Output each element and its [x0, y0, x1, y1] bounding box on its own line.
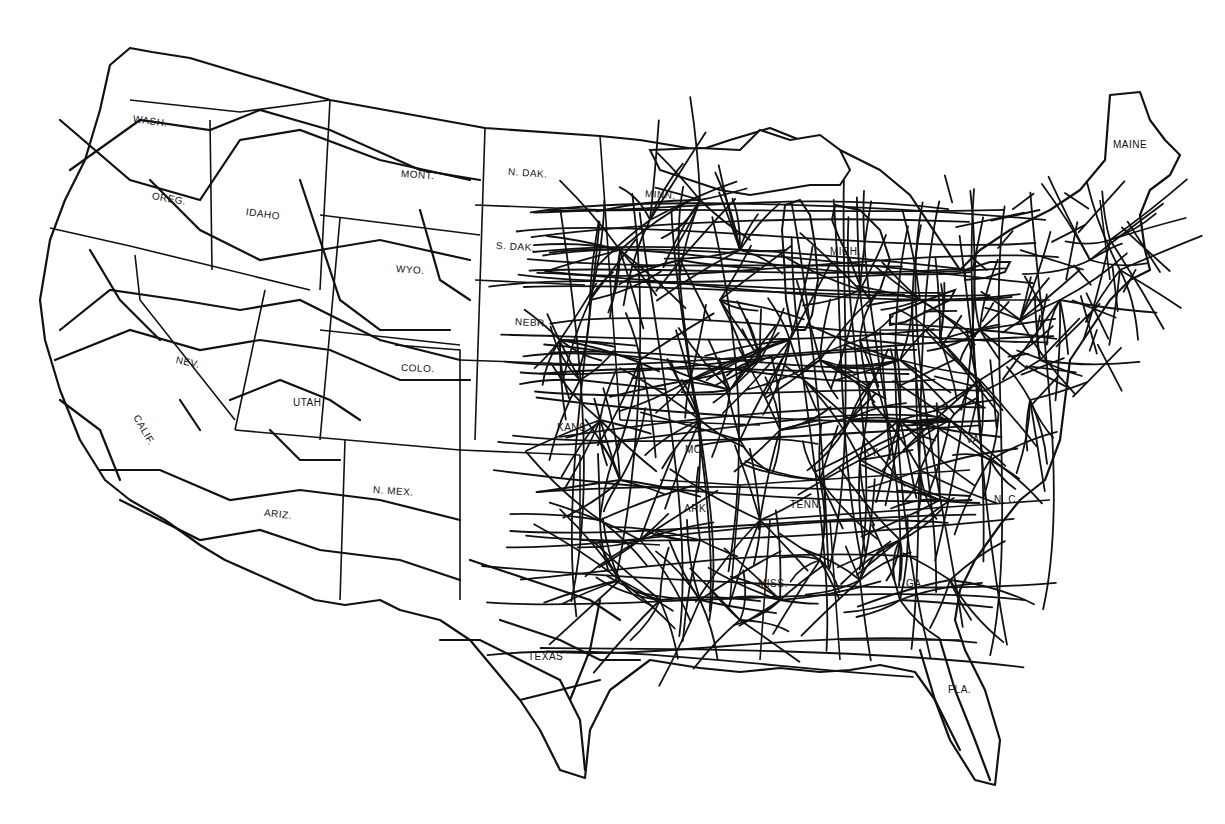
state-label-texas: TEXAS [528, 651, 563, 662]
state-label-mo: MO. [685, 444, 705, 455]
state-label-mont: MONT. [401, 168, 435, 181]
state-label-colo: COLO. [401, 362, 435, 374]
lake-superior [650, 130, 850, 195]
state-label-kans: KANS. [557, 422, 590, 433]
state-label-nebr: NEBR. [515, 316, 549, 329]
state-label-mich: MICH. [830, 246, 861, 257]
state-label-s-dak: S. DAK. [496, 240, 536, 253]
state-label-tenn: TENN. [790, 499, 823, 510]
rail-network-texas [440, 560, 640, 770]
state-label-ga: GA. [906, 578, 925, 589]
rail-network-east [482, 97, 1202, 685]
state-label-minn: MINN. [645, 188, 677, 201]
state-label-fla: FLA. [948, 684, 971, 695]
state-label-ky: KY. [864, 447, 880, 458]
us-railroad-map [0, 0, 1225, 824]
state-label-maine: MAINE [1113, 139, 1147, 150]
state-label-n-c: N. C. [994, 494, 1019, 505]
state-label-wyo: WYO. [396, 263, 425, 276]
state-label-va: VA. [966, 434, 983, 445]
state-label-miss: MISS. [758, 578, 788, 589]
state-label-utah: UTAH [293, 397, 321, 408]
state-label-ark: ARK. [684, 503, 709, 514]
